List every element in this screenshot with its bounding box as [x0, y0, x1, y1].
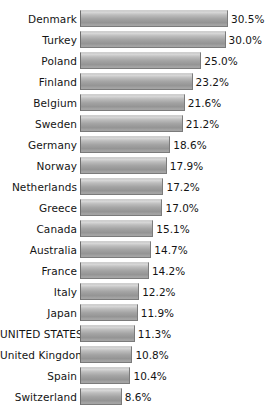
bar-area: 8.6%	[80, 388, 270, 405]
category-label: Canada	[0, 223, 77, 235]
bar-area: 17.9%	[80, 157, 270, 174]
category-label: Norway	[0, 160, 77, 172]
category-label: France	[0, 265, 77, 277]
bar-area: 11.9%	[80, 304, 270, 321]
chart-row: Finland23.2%	[0, 71, 270, 92]
bar	[80, 157, 167, 174]
value-label: 25.0%	[204, 55, 237, 67]
category-label: Belgium	[0, 97, 77, 109]
value-label: 21.6%	[188, 97, 221, 109]
chart-row: Switzerland8.6%	[0, 386, 270, 407]
bar	[80, 325, 135, 342]
bar	[80, 346, 132, 363]
bar	[80, 73, 193, 90]
chart-row: Canada15.1%	[0, 218, 270, 239]
chart-row: France14.2%	[0, 260, 270, 281]
category-label: Poland	[0, 55, 77, 67]
chart-row: Australia14.7%	[0, 239, 270, 260]
bar-area: 10.8%	[80, 346, 270, 363]
category-label: Japan	[0, 307, 77, 319]
bar-area: 11.3%	[80, 325, 270, 342]
value-label: 30.5%	[231, 13, 264, 25]
bar-area: 17.0%	[80, 199, 270, 216]
bar-area: 30.5%	[80, 10, 270, 27]
chart-row: Germany18.6%	[0, 134, 270, 155]
bar-area: 17.2%	[80, 178, 270, 195]
chart-row: UNITED STATES11.3%	[0, 323, 270, 344]
chart-row: Denmark30.5%	[0, 8, 270, 29]
chart-row: Italy12.2%	[0, 281, 270, 302]
bar	[80, 241, 151, 258]
category-label: Turkey	[0, 34, 77, 46]
chart-row: Poland25.0%	[0, 50, 270, 71]
bar-area: 30.0%	[80, 31, 270, 48]
bar	[80, 178, 163, 195]
bar	[80, 52, 201, 69]
chart-row: Greece17.0%	[0, 197, 270, 218]
value-label: 18.6%	[173, 139, 206, 151]
value-label: 12.2%	[142, 286, 175, 298]
value-label: 10.8%	[135, 349, 168, 361]
bar-area: 14.2%	[80, 262, 270, 279]
chart-rows: Denmark30.5%Turkey30.0%Poland25.0%Finlan…	[0, 8, 270, 407]
bar	[80, 220, 153, 237]
chart-row: Turkey30.0%	[0, 29, 270, 50]
category-label: Germany	[0, 139, 77, 151]
category-label: Switzerland	[0, 391, 77, 403]
value-label: 30.0%	[229, 34, 262, 46]
bar	[80, 115, 183, 132]
bar	[80, 136, 170, 153]
category-label: UNITED STATES	[0, 328, 77, 340]
category-label: United Kingdom	[0, 349, 77, 361]
value-label: 17.2%	[166, 181, 199, 193]
chart-row: Japan11.9%	[0, 302, 270, 323]
bar-area: 23.2%	[80, 73, 270, 90]
value-label: 17.0%	[165, 202, 198, 214]
chart-row: Spain10.4%	[0, 365, 270, 386]
bar-area: 25.0%	[80, 52, 270, 69]
bar	[80, 94, 185, 111]
value-label: 11.3%	[138, 328, 171, 340]
bar	[80, 10, 228, 27]
value-label: 10.4%	[133, 370, 166, 382]
value-label: 14.2%	[152, 265, 185, 277]
bar-area: 12.2%	[80, 283, 270, 300]
category-label: Netherlands	[0, 181, 77, 193]
value-label: 11.9%	[141, 307, 174, 319]
value-label: 21.2%	[186, 118, 219, 130]
value-label: 17.9%	[170, 160, 203, 172]
category-label: Australia	[0, 244, 77, 256]
category-label: Finland	[0, 76, 77, 88]
bar-area: 18.6%	[80, 136, 270, 153]
chart-row: Norway17.9%	[0, 155, 270, 176]
chart-row: United Kingdom10.8%	[0, 344, 270, 365]
bar-area: 14.7%	[80, 241, 270, 258]
bar	[80, 304, 138, 321]
chart-row: Netherlands17.2%	[0, 176, 270, 197]
value-label: 15.1%	[156, 223, 189, 235]
bar	[80, 262, 149, 279]
bar	[80, 283, 139, 300]
category-label: Spain	[0, 370, 77, 382]
bar	[80, 199, 162, 216]
bar-area: 15.1%	[80, 220, 270, 237]
value-label: 23.2%	[196, 76, 229, 88]
category-label: Sweden	[0, 118, 77, 130]
category-label: Denmark	[0, 13, 77, 25]
value-label: 14.7%	[154, 244, 187, 256]
bar	[80, 388, 122, 405]
bar-area: 21.6%	[80, 94, 270, 111]
value-label: 8.6%	[125, 391, 152, 403]
bar-area: 10.4%	[80, 367, 270, 384]
bar-area: 21.2%	[80, 115, 270, 132]
chart-row: Belgium21.6%	[0, 92, 270, 113]
category-label: Greece	[0, 202, 77, 214]
bar	[80, 367, 130, 384]
bar	[80, 31, 226, 48]
chart-row: Sweden21.2%	[0, 113, 270, 134]
category-label: Italy	[0, 286, 77, 298]
